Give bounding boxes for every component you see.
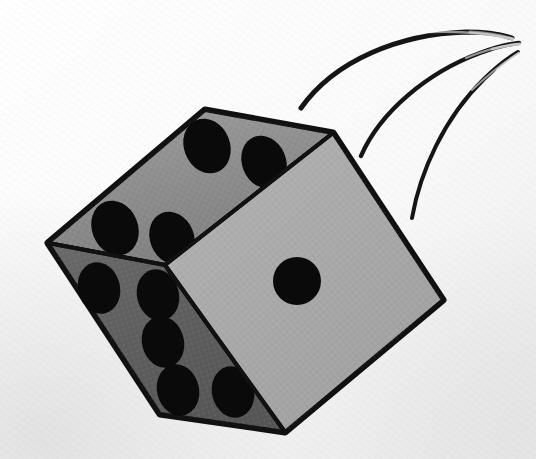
- die-face-right-pips: [273, 257, 321, 305]
- pip: [273, 257, 321, 305]
- dice-illustration-canvas: Rolling Die six-sided die Top face 4 Lef…: [0, 0, 536, 459]
- illustration-svg: [0, 0, 536, 459]
